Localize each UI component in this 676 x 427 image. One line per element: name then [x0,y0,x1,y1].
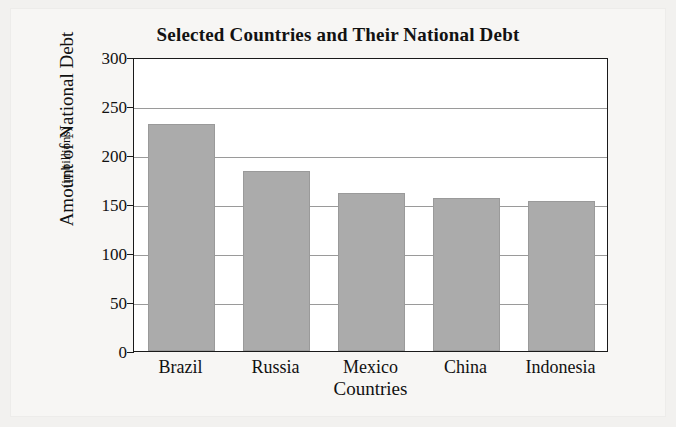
bar-china[interactable] [433,198,500,351]
y-axis-subtitle: (in billions) [58,43,73,273]
plot-area [133,58,608,352]
y-axis-ticks: 050100150200250300 [75,58,127,352]
y-axis-tick-label: 150 [83,197,127,214]
x-axis-title: Countries [133,378,608,400]
x-axis-tick-label-mexico: Mexico [323,356,418,378]
x-axis-tick-label-brazil: Brazil [133,356,228,378]
y-axis-tick-label: 100 [83,246,127,263]
bar-chart-figure: Selected Countries and Their National De… [0,0,676,427]
x-axis-tick-label-russia: Russia [228,356,323,378]
bar-mexico[interactable] [338,193,405,351]
chart-title: Selected Countries and Their National De… [0,24,676,46]
x-axis-tick-label-china: China [418,356,513,378]
chart-page: Selected Countries and Their National De… [0,0,676,427]
bar-russia[interactable] [243,171,310,351]
bars-layer [134,59,607,351]
y-axis-tick-label: 250 [83,99,127,116]
bar-brazil[interactable] [148,124,215,351]
y-axis-tick-label: 50 [83,295,127,312]
y-axis-tick-label: 200 [83,148,127,165]
x-axis-ticks: BrazilRussiaMexicoChinaIndonesia [133,356,608,380]
bar-indonesia[interactable] [528,201,595,351]
x-axis-tick-label-indonesia: Indonesia [513,356,608,378]
y-axis-tick-label: 0 [83,344,127,361]
y-axis-tick-mark [127,352,134,353]
y-axis-tick-label: 300 [83,50,127,67]
